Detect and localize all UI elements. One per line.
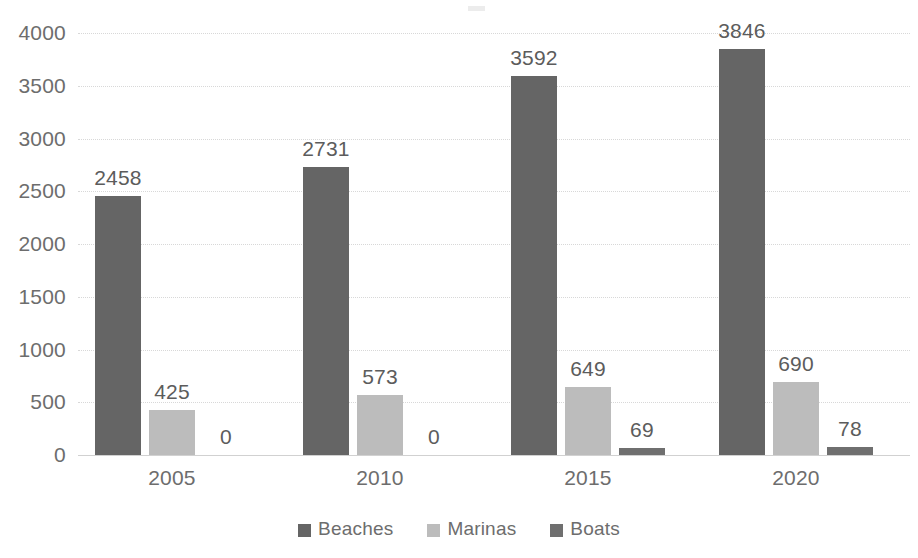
legend-label: Marinas: [447, 518, 516, 540]
y-axis-tick-label: 2500: [18, 179, 66, 203]
bar-group-2015: 359264969: [494, 33, 702, 455]
y-axis-tick-label: 1000: [18, 338, 66, 362]
axis-baseline: [78, 455, 910, 457]
y-axis-tick-label: 0: [54, 443, 66, 467]
x-axis-tick-label: 2020: [772, 466, 820, 490]
bar-value-label: 0: [220, 425, 232, 449]
bar-marinas-2020[interactable]: [773, 382, 819, 455]
y-axis-tick-label: 2000: [18, 232, 66, 256]
scan-artifact: [468, 6, 485, 11]
bar-beaches-2005[interactable]: [95, 196, 141, 455]
legend-label: Beaches: [318, 518, 393, 540]
y-axis-labels: 05001000150020002500300035004000: [0, 33, 66, 455]
legend-item-boats[interactable]: Boats: [550, 518, 620, 540]
bar-beaches-2010[interactable]: [303, 167, 349, 455]
legend-label: Boats: [570, 518, 620, 540]
y-axis-tick-label: 1500: [18, 285, 66, 309]
x-axis-tick-label: 2015: [564, 466, 612, 490]
bar-group-2020: 384669078: [702, 33, 910, 455]
bar-beaches-2020[interactable]: [719, 49, 765, 455]
legend-swatch-icon: [298, 524, 311, 537]
y-axis-tick-label: 3000: [18, 127, 66, 151]
bar-marinas-2015[interactable]: [565, 387, 611, 455]
bar-value-label: 2731: [302, 137, 350, 161]
legend: BeachesMarinasBoats: [0, 518, 918, 540]
bar-value-label: 649: [570, 357, 606, 381]
bar-value-label: 2458: [94, 166, 142, 190]
bar-value-label: 425: [154, 380, 190, 404]
y-axis-tick-label: 3500: [18, 74, 66, 98]
x-axis-tick-label: 2005: [148, 466, 196, 490]
bar-value-label: 690: [778, 352, 814, 376]
bar-chart: 05001000150020002500300035004000 2458425…: [0, 0, 918, 558]
y-axis-tick-label: 500: [30, 390, 66, 414]
plot-area: 2458425027315730359264969384669078: [78, 33, 910, 455]
legend-item-beaches[interactable]: Beaches: [298, 518, 393, 540]
legend-item-marinas[interactable]: Marinas: [427, 518, 516, 540]
x-axis-tick-label: 2010: [356, 466, 404, 490]
y-axis-tick-label: 4000: [18, 21, 66, 45]
bar-value-label: 3846: [718, 19, 766, 43]
legend-swatch-icon: [427, 524, 440, 537]
bar-value-label: 78: [838, 417, 862, 441]
bar-marinas-2010[interactable]: [357, 395, 403, 455]
bar-group-2005: 24584250: [78, 33, 286, 455]
bar-value-label: 69: [630, 418, 654, 442]
bar-marinas-2005[interactable]: [149, 410, 195, 455]
bar-value-label: 0: [428, 425, 440, 449]
bar-value-label: 573: [362, 365, 398, 389]
legend-swatch-icon: [550, 524, 563, 537]
bar-boats-2015[interactable]: [619, 448, 665, 455]
bar-beaches-2015[interactable]: [511, 76, 557, 455]
bar-boats-2020[interactable]: [827, 447, 873, 455]
bar-value-label: 3592: [510, 46, 558, 70]
bar-group-2010: 27315730: [286, 33, 494, 455]
